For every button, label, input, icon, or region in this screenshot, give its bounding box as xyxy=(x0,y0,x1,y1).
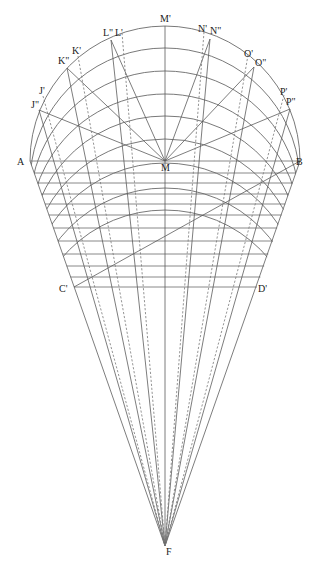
point-label-j1: J' xyxy=(39,85,45,96)
diagonal-line xyxy=(74,161,300,287)
point-label-b: B xyxy=(296,156,303,167)
dashed-line-to-F xyxy=(122,33,165,546)
point-label-j2: J" xyxy=(31,99,39,110)
point-label-m: M xyxy=(161,162,170,173)
radial-line xyxy=(165,39,210,161)
point-label-k1: K' xyxy=(72,45,81,56)
point-label-l1: L' xyxy=(115,27,123,38)
point-label-o1: O' xyxy=(244,48,253,59)
dashed-line-to-F xyxy=(78,56,165,546)
point-label-o2: O" xyxy=(255,57,266,68)
radial-line xyxy=(67,68,165,161)
point-labels: M'L"L'N'N"K'K"O'O"J'J"P'P"AMBC'D'F xyxy=(17,13,303,557)
point-label-d-prime: D' xyxy=(258,283,267,294)
line-to-F xyxy=(165,67,254,546)
dashed-line-to-F xyxy=(43,96,165,546)
geometric-construction-diagram: M'L"L'N'N"K'K"O'O"J'J"P'P"AMBC'D'F xyxy=(0,0,319,568)
point-label-c-prime: C' xyxy=(59,283,68,294)
point-label-a: A xyxy=(17,156,25,167)
line-to-F xyxy=(165,161,300,546)
diagonal-line xyxy=(74,161,300,287)
point-label-p2: P" xyxy=(286,96,296,107)
point-label-k2: K" xyxy=(58,55,69,66)
point-label-n2: N" xyxy=(210,25,221,36)
line-to-F xyxy=(165,39,210,546)
point-label-m-prime: M' xyxy=(160,13,171,24)
dashed-lines-to-F xyxy=(43,32,284,546)
point-label-n1: N' xyxy=(198,23,207,34)
point-label-l2: L" xyxy=(103,27,113,38)
dashed-line-to-F xyxy=(165,95,284,546)
line-to-F xyxy=(39,110,165,546)
radial-line xyxy=(165,109,290,161)
point-label-f: F xyxy=(166,546,172,557)
